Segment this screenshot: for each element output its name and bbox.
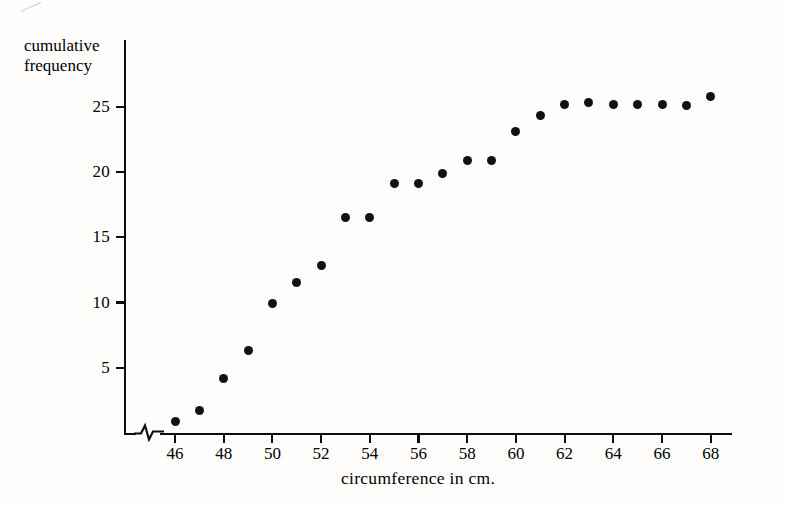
data-point [536,111,545,120]
data-point [560,100,569,109]
x-tick-62 [564,435,566,443]
data-point [633,100,642,109]
plot-area: 510152025 464850525456586062646668 [0,0,786,505]
x-tick-label-52: 52 [301,445,341,463]
x-tick-label-64: 64 [593,445,633,463]
x-tick-56 [417,435,419,443]
data-point [244,346,253,355]
x-tick-48 [223,435,225,443]
data-point [292,278,301,287]
y-tick-label-wrap: 15 [42,228,110,245]
data-point [268,299,277,308]
x-tick-label-66: 66 [642,445,682,463]
data-point [487,156,496,165]
x-tick-46 [174,435,176,443]
data-point [390,179,399,188]
x-tick-label-62: 62 [545,445,585,463]
data-point [341,213,350,222]
x-axis-line [124,433,732,435]
y-tick-label-wrap: 10 [42,294,110,311]
y-tick-label-wrap: 25 [42,98,110,115]
data-point [682,101,691,110]
x-axis-title: circumference in cm. [0,468,786,489]
y-tick-25 [116,106,124,108]
x-tick-54 [369,435,371,443]
y-tick-label-20: 20 [50,163,110,180]
y-tick-label-10: 10 [50,294,110,311]
data-point [706,92,715,101]
y-tick-label-25: 25 [50,98,110,115]
x-tick-label-68: 68 [691,445,731,463]
y-tick-label-15: 15 [50,228,110,245]
data-point [219,374,228,383]
x-tick-68 [710,435,712,443]
data-point [584,98,593,107]
y-tick-label-5: 5 [50,359,110,376]
x-tick-label-58: 58 [447,445,487,463]
data-point [658,100,667,109]
x-tick-52 [320,435,322,443]
x-tick-label-46: 46 [155,445,195,463]
x-axis-break-icon [132,420,166,442]
x-tick-60 [515,435,517,443]
y-tick-15 [116,236,124,238]
x-tick-label-48: 48 [204,445,244,463]
chart-page: cumulative frequency 510152025 464850525… [0,0,786,505]
data-point [195,406,204,415]
x-tick-50 [271,435,273,443]
y-tick-20 [116,171,124,173]
data-point [317,261,326,270]
x-tick-66 [661,435,663,443]
x-tick-label-56: 56 [399,445,439,463]
x-tick-label-60: 60 [496,445,536,463]
data-point [365,213,374,222]
y-tick-label-wrap: 20 [42,163,110,180]
x-tick-64 [612,435,614,443]
x-tick-label-54: 54 [350,445,390,463]
data-point [511,127,520,136]
data-point [463,156,472,165]
data-point [609,100,618,109]
data-point [171,417,180,426]
y-tick-5 [116,367,124,369]
x-tick-label-50: 50 [252,445,292,463]
data-point [438,169,447,178]
x-tick-58 [466,435,468,443]
y-tick-label-wrap: 5 [42,359,110,376]
data-point [414,179,423,188]
y-tick-10 [116,301,124,303]
y-axis-line [124,40,126,434]
